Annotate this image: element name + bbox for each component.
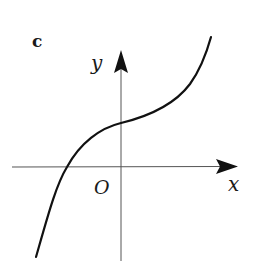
x-axis-label: x bbox=[228, 172, 239, 196]
origin-label: O bbox=[94, 176, 110, 198]
x-axis bbox=[12, 167, 222, 168]
panel-label: c bbox=[32, 31, 42, 51]
graph-figure: c y x O bbox=[0, 0, 261, 267]
y-axis-label: y bbox=[90, 51, 103, 75]
